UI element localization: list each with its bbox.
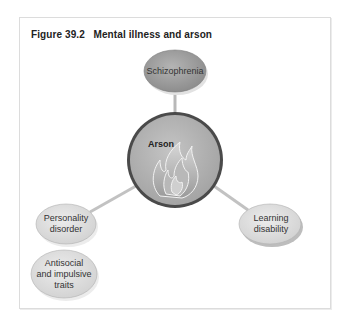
personality-disorder-line-2: disorder (50, 224, 83, 235)
learning-disability-line-2: disability (254, 224, 289, 235)
label-arson: Arson (148, 139, 174, 149)
antisocial-line-2: and impulsive (36, 269, 91, 280)
node-center-arson (127, 112, 223, 208)
connector-learning-disability (214, 186, 248, 210)
label-antisocial-traits: Antisocial and impulsive traits (30, 256, 98, 292)
connector-personality-disorder (90, 186, 136, 212)
learning-disability-line-1: Learning (253, 213, 288, 224)
label-schizophrenia: Schizophrenia (140, 62, 210, 80)
schizophrenia-text: Schizophrenia (146, 66, 203, 77)
antisocial-line-1: Antisocial (45, 258, 84, 269)
label-learning-disability: Learning disability (240, 211, 302, 237)
label-personality-disorder: Personality disorder (36, 211, 96, 237)
antisocial-line-3: traits (54, 280, 74, 291)
personality-disorder-line-1: Personality (44, 213, 89, 224)
